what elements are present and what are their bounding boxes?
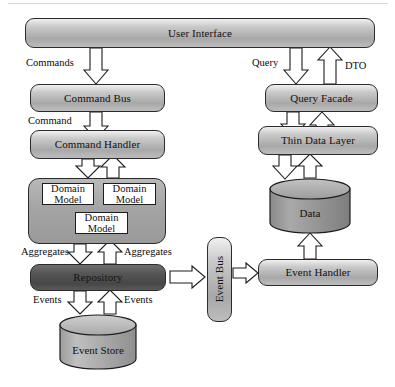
node-user-interface-label: User Interface: [168, 27, 232, 39]
arrow-data-to-thin-data-layer: [298, 154, 322, 178]
edge-label-events-left: Events: [33, 294, 62, 305]
node-user-interface[interactable]: User Interface: [25, 18, 375, 48]
node-command-handler[interactable]: Command Handler: [30, 130, 165, 159]
node-data-label: Data: [268, 207, 352, 219]
node-event-handler[interactable]: Event Handler: [258, 259, 378, 286]
edge-label-aggregates-left: Aggregates: [21, 246, 69, 257]
node-event-bus[interactable]: Event Bus: [207, 237, 232, 322]
arrow-query-facade-to-ui: [318, 47, 342, 84]
edge-label-query: Query: [252, 57, 278, 68]
arrow-handler-to-domain: [76, 159, 100, 178]
scan-artifact-line: [8, 3, 388, 4]
node-command-bus[interactable]: Command Bus: [30, 84, 165, 112]
node-event-bus-label: Event Bus: [213, 256, 225, 302]
node-domain-model-3[interactable]: Domain Model: [75, 212, 128, 234]
arrow-ui-to-query-facade: [284, 48, 308, 84]
arrow-repository-to-event-store: [68, 291, 92, 314]
edge-label-dto: DTO: [345, 60, 366, 71]
node-domain-model-2[interactable]: Domain Model: [103, 183, 156, 205]
node-domain-model-3-label: Domain Model: [76, 212, 127, 235]
node-thin-data-layer[interactable]: Thin Data Layer: [258, 126, 378, 155]
node-command-bus-label: Command Bus: [64, 92, 131, 104]
node-command-handler-label: Command Handler: [55, 138, 141, 150]
node-query-facade[interactable]: Query Facade: [265, 84, 378, 112]
node-domain-model-1-label: Domain Model: [43, 183, 93, 206]
node-query-facade-label: Query Facade: [290, 92, 353, 104]
arrow-ui-to-command-bus: [84, 48, 108, 84]
arrow-event-bus-to-event-handler: [233, 263, 258, 283]
arrow-event-handler-to-data: [298, 233, 322, 259]
node-event-store[interactable]: Event Store: [58, 314, 138, 370]
edge-label-events-right: Events: [124, 294, 153, 305]
arrow-event-store-to-repository: [98, 290, 122, 314]
node-repository[interactable]: Repository: [30, 264, 166, 291]
node-repository-label: Repository: [73, 271, 122, 283]
edge-label-commands: Commands: [26, 57, 74, 68]
diagram-canvas: User Interface Command Bus Command Handl…: [0, 0, 395, 387]
edge-label-aggregates-right: Aggregates: [124, 246, 172, 257]
node-domain-model-2-label: Domain Model: [104, 183, 155, 206]
node-domain-model-1[interactable]: Domain Model: [42, 183, 94, 205]
arrow-thin-data-layer-to-data: [273, 155, 297, 179]
arrow-domain-to-repository: [68, 244, 92, 264]
arrow-repository-to-event-bus: [170, 266, 205, 288]
node-event-store-label: Event Store: [58, 344, 138, 356]
node-thin-data-layer-label: Thin Data Layer: [281, 134, 355, 146]
node-event-handler-label: Event Handler: [285, 266, 350, 278]
node-data[interactable]: Data: [268, 178, 352, 234]
edge-label-command: Command: [28, 115, 72, 126]
